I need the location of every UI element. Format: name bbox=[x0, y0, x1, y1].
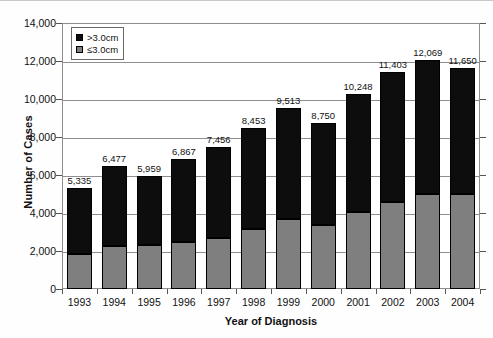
y-axis-tick-label: 4,000 bbox=[0, 207, 56, 219]
bar-value-label: 10,248 bbox=[335, 81, 381, 92]
bar-segment-large[interactable] bbox=[241, 128, 266, 229]
bar-value-label: 7,456 bbox=[196, 134, 242, 145]
bar-segment-small[interactable] bbox=[450, 194, 475, 289]
bar-value-label: 6,867 bbox=[161, 146, 207, 157]
x-axis-tick-mark bbox=[271, 289, 272, 294]
bar-segment-large[interactable] bbox=[206, 147, 231, 237]
x-axis-tick-mark bbox=[236, 289, 237, 294]
bar-segment-small[interactable] bbox=[67, 254, 92, 289]
bar-segment-large[interactable] bbox=[276, 108, 301, 218]
bar-segment-small[interactable] bbox=[380, 202, 405, 289]
y-axis-tick-label: 10,000 bbox=[0, 93, 56, 105]
legend-swatch-icon bbox=[76, 34, 83, 41]
bar-segment-large[interactable] bbox=[380, 72, 405, 201]
bar-segment-small[interactable] bbox=[346, 212, 371, 289]
chart-legend: >3.0cm≤3.0cm bbox=[71, 27, 124, 60]
x-axis-tick-mark bbox=[132, 289, 133, 294]
x-axis-tick-mark bbox=[97, 289, 98, 294]
y-axis-tick-mark-right bbox=[480, 175, 486, 176]
bar-value-label: 9,513 bbox=[265, 95, 311, 106]
bar-value-label: 8,750 bbox=[300, 110, 346, 121]
bar-segment-large[interactable] bbox=[311, 123, 336, 226]
bar-value-label: 11,403 bbox=[370, 59, 416, 70]
bar-segment-large[interactable] bbox=[450, 68, 475, 194]
y-axis-tick-label: 14,000 bbox=[0, 17, 56, 29]
x-axis-tick-mark bbox=[376, 289, 377, 294]
legend-label: >3.0cm bbox=[87, 32, 118, 43]
bar-segment-large[interactable] bbox=[415, 60, 440, 194]
y-axis-tick-mark-right bbox=[480, 23, 486, 24]
bar-segment-large[interactable] bbox=[67, 188, 92, 254]
bar-segment-large[interactable] bbox=[137, 176, 162, 246]
x-axis-tick-mark bbox=[410, 289, 411, 294]
legend-swatch-icon bbox=[76, 46, 83, 53]
x-axis-tick-mark bbox=[167, 289, 168, 294]
x-axis-tick-mark bbox=[62, 289, 63, 294]
y-axis-tick-label: 12,000 bbox=[0, 55, 56, 67]
x-axis-tick-mark bbox=[341, 289, 342, 294]
x-axis-title: Year of Diagnosis bbox=[62, 315, 480, 327]
legend-item: >3.0cm bbox=[76, 32, 118, 43]
bar-segment-small[interactable] bbox=[241, 229, 266, 289]
legend-label: ≤3.0cm bbox=[87, 44, 118, 55]
y-axis-tick-label: 6,000 bbox=[0, 169, 56, 181]
y-axis-tick-label: 0 bbox=[0, 283, 56, 295]
bar-segment-large[interactable] bbox=[102, 166, 127, 246]
bar-value-label: 11,650 bbox=[440, 55, 486, 66]
bar-segment-small[interactable] bbox=[171, 242, 196, 289]
bar-segment-small[interactable] bbox=[102, 246, 127, 289]
bar-segment-large[interactable] bbox=[346, 94, 371, 212]
y-axis-tick-label: 8,000 bbox=[0, 131, 56, 143]
bar-segment-small[interactable] bbox=[137, 245, 162, 289]
x-axis-tick-mark bbox=[445, 289, 446, 294]
y-axis-tick-mark-right bbox=[480, 137, 486, 138]
legend-item: ≤3.0cm bbox=[76, 44, 118, 55]
y-axis-tick-mark-right bbox=[480, 213, 486, 214]
bar-segment-small[interactable] bbox=[206, 238, 231, 289]
bar-segment-small[interactable] bbox=[311, 225, 336, 289]
y-axis-tick-mark-right bbox=[480, 251, 486, 252]
x-axis-tick-label: 2004 bbox=[440, 296, 486, 308]
bar-series-container: 5,3356,4775,9596,8677,4568,4539,5138,750… bbox=[62, 23, 480, 289]
x-axis-tick-mark bbox=[480, 289, 481, 294]
x-axis-tick-mark bbox=[306, 289, 307, 294]
chart-figure: Number of Cases 14,00012,00010,0008,0006… bbox=[0, 0, 493, 338]
bar-segment-small[interactable] bbox=[276, 219, 301, 289]
bar-value-label: 5,335 bbox=[56, 175, 102, 186]
bar-value-label: 8,453 bbox=[231, 115, 277, 126]
x-axis-tick-mark bbox=[201, 289, 202, 294]
y-axis-tick-label: 2,000 bbox=[0, 245, 56, 257]
y-axis-tick-mark-right bbox=[480, 99, 486, 100]
bar-segment-small[interactable] bbox=[415, 194, 440, 289]
bar-value-label: 5,959 bbox=[126, 163, 172, 174]
bar-segment-large[interactable] bbox=[171, 159, 196, 243]
